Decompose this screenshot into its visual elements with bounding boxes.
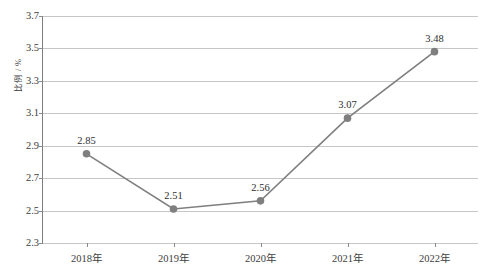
data-point-marker <box>257 197 265 205</box>
data-point-marker <box>344 114 352 122</box>
line-chart: 比例 / % 3.73.53.33.12.92.72.52.3 2018年201… <box>0 0 486 274</box>
data-point-marker <box>83 150 91 158</box>
data-point-label: 2.56 <box>234 182 288 194</box>
data-point-marker <box>431 48 439 56</box>
data-point-label: 3.48 <box>408 33 462 45</box>
data-point-label: 2.51 <box>147 190 201 202</box>
data-point-marker <box>170 205 178 213</box>
data-point-label: 3.07 <box>321 99 375 111</box>
data-point-label: 2.85 <box>60 135 114 147</box>
